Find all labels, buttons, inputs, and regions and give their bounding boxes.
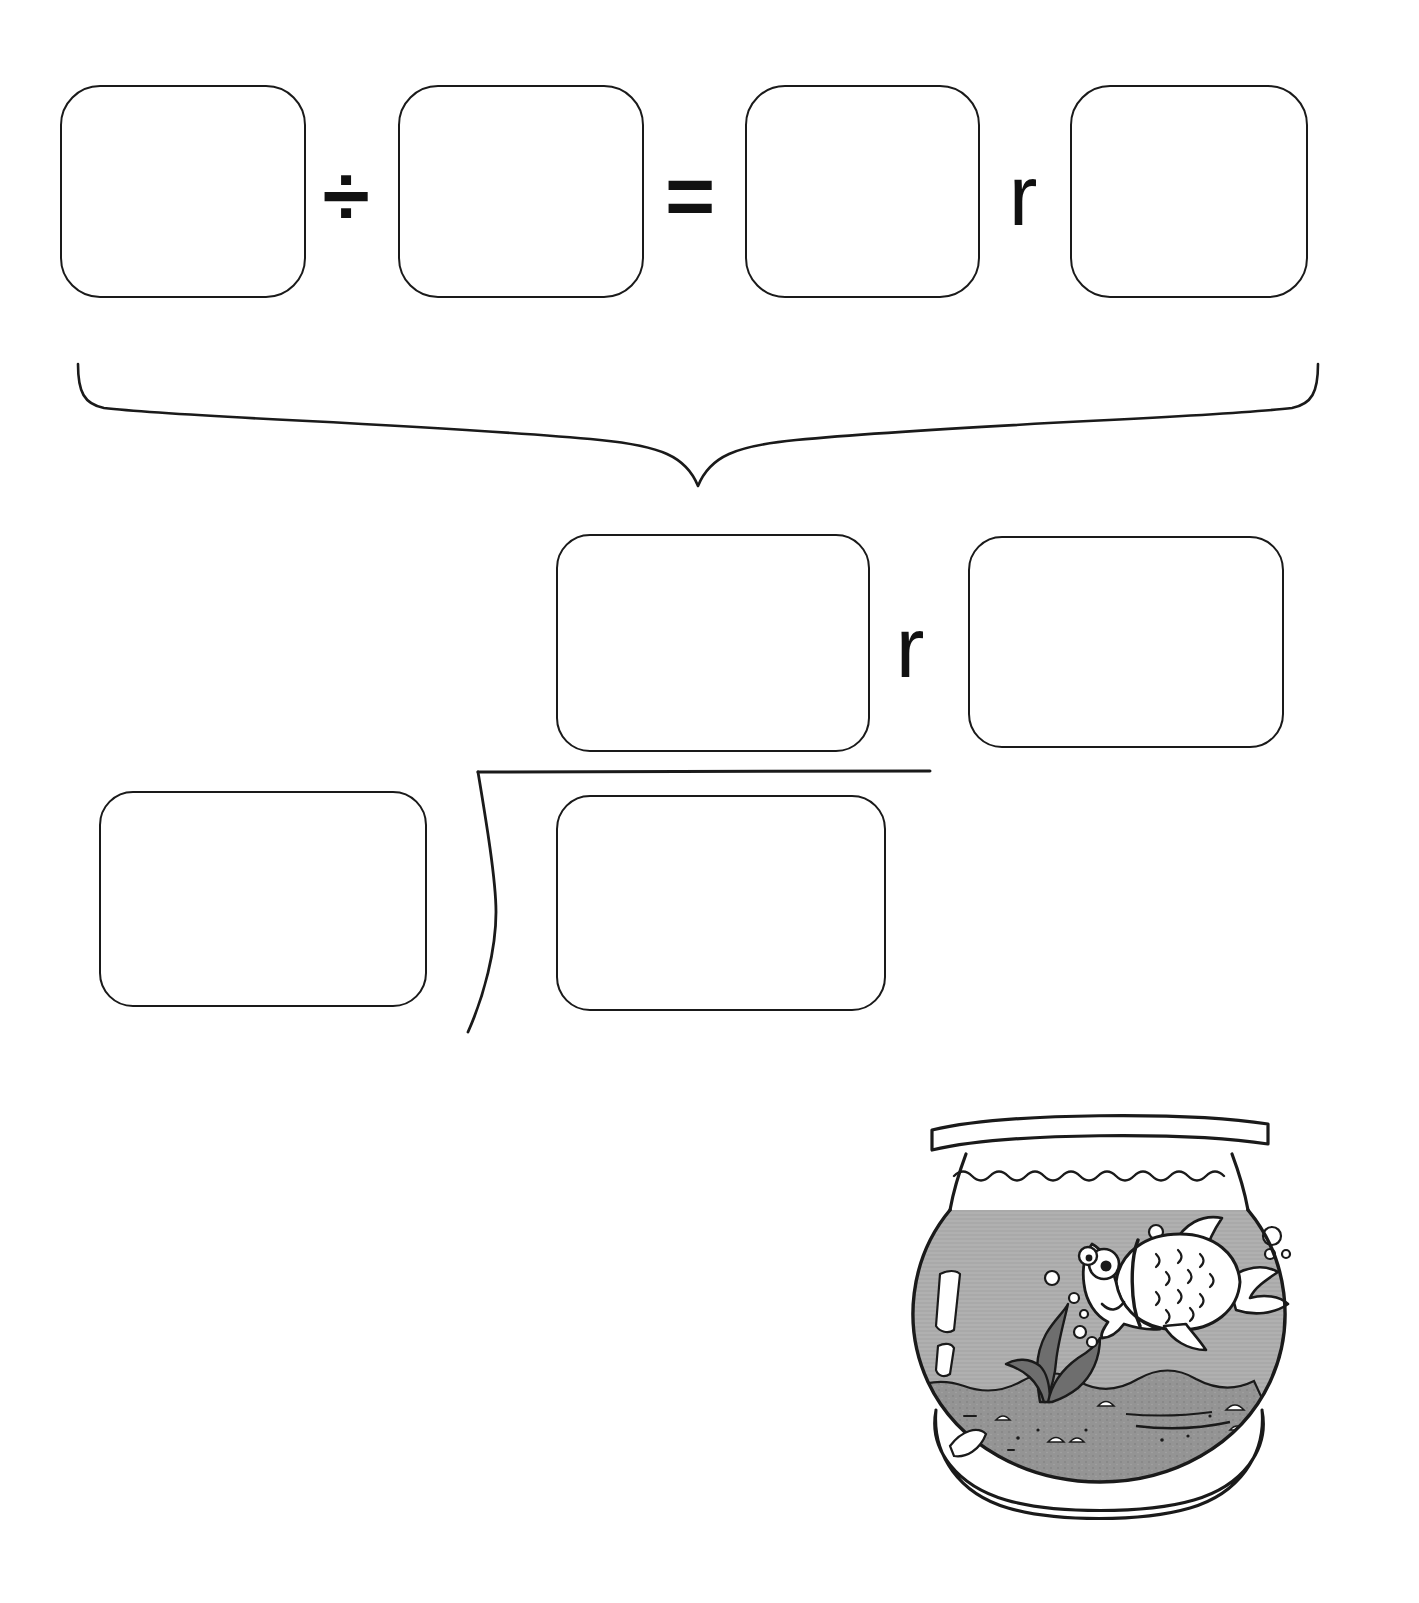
equation-divisor-box[interactable] xyxy=(398,85,644,298)
fishbowl-illustration xyxy=(888,1058,1308,1528)
bowl-rim xyxy=(932,1116,1268,1150)
worksheet-page: ÷ = r r xyxy=(0,0,1419,1603)
long-division-dividend-box[interactable] xyxy=(556,795,886,1011)
long-division-quotient-box[interactable] xyxy=(556,534,870,752)
equation-remainder-box[interactable] xyxy=(1070,85,1308,298)
bowl-neck-left xyxy=(950,1154,966,1210)
long-division-divisor-box[interactable] xyxy=(99,791,427,1007)
equation-remainder-label: r xyxy=(995,140,1051,250)
division-symbol: ÷ xyxy=(318,140,374,250)
bowl-neck-right xyxy=(1232,1154,1248,1210)
waterline xyxy=(954,1172,1224,1181)
equation-quotient-box[interactable] xyxy=(745,85,980,298)
equals-symbol: = xyxy=(655,140,725,250)
equation-dividend-box[interactable] xyxy=(60,85,306,298)
long-division-remainder-label: r xyxy=(884,592,936,702)
fishbowl-drawing xyxy=(888,1058,1308,1528)
long-division-remainder-box[interactable] xyxy=(968,536,1284,748)
grouping-brace-icon xyxy=(78,364,1318,486)
